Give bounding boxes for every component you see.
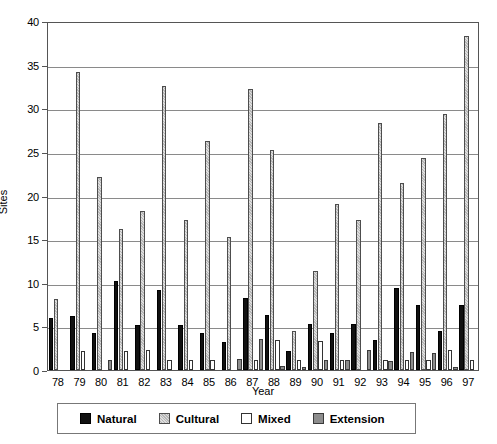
bar-natural-96 — [438, 331, 443, 370]
bar-cultural-93 — [378, 123, 383, 370]
y-tick-label: 40 — [27, 17, 39, 28]
bar-cultural-81 — [119, 229, 124, 370]
bar-mixed-97 — [470, 360, 475, 370]
gridline — [48, 67, 478, 68]
bar-natural-93 — [373, 340, 378, 370]
bar-natural-89 — [286, 351, 291, 370]
bar-cultural-90 — [313, 271, 318, 370]
bar-mixed-88 — [275, 340, 280, 370]
bar-natural-91 — [330, 333, 335, 370]
legend-label: Mixed — [258, 413, 291, 425]
gridline — [48, 198, 478, 199]
bar-natural-86 — [222, 342, 227, 370]
bar-natural-78 — [49, 318, 54, 370]
bar-extension-90 — [324, 360, 329, 370]
bar-natural-87 — [243, 298, 248, 370]
bar-natural-92 — [351, 324, 356, 370]
legend-swatch-cultural-icon — [159, 413, 170, 424]
bar-cultural-82 — [140, 211, 145, 370]
bar-mixed-93 — [383, 360, 388, 370]
legend-item-cultural: Cultural — [159, 413, 219, 425]
bar-extension-88 — [280, 366, 285, 370]
bar-mixed-79 — [81, 351, 86, 370]
bar-extension-92 — [367, 350, 372, 370]
gridline — [48, 154, 478, 155]
bar-natural-94 — [394, 288, 399, 370]
bar-mixed-82 — [146, 350, 151, 370]
gridline — [48, 241, 478, 242]
y-tick-label: 5 — [33, 322, 39, 333]
y-tick-label: 35 — [27, 60, 39, 71]
legend-swatch-extension-icon — [313, 413, 324, 424]
bar-extension-95 — [432, 353, 437, 370]
bar-natural-88 — [265, 315, 270, 370]
bar-chart: 0510152025303540 Sites 78798081828384858… — [0, 0, 497, 444]
x-axis-title: Year — [47, 385, 479, 397]
y-tick-label: 20 — [27, 191, 39, 202]
legend-label: Natural — [97, 413, 137, 425]
bar-cultural-84 — [184, 220, 189, 370]
gridline — [48, 285, 478, 286]
legend-swatch-natural-icon — [80, 413, 91, 424]
bar-natural-85 — [200, 333, 205, 370]
bar-mixed-81 — [124, 351, 129, 370]
bar-cultural-79 — [76, 72, 81, 370]
bar-cultural-86 — [227, 237, 232, 370]
bar-extension-87 — [259, 339, 264, 370]
bar-cultural-87 — [248, 89, 253, 370]
bar-natural-95 — [416, 305, 421, 370]
bar-cultural-95 — [421, 158, 426, 370]
bar-mixed-89 — [297, 360, 302, 370]
bar-cultural-85 — [205, 141, 210, 370]
bar-natural-81 — [114, 281, 119, 370]
legend-item-extension: Extension — [313, 413, 385, 425]
bar-mixed-96 — [448, 350, 453, 370]
bar-mixed-84 — [189, 360, 194, 370]
bar-extension-89 — [302, 367, 307, 370]
bar-extension-93 — [388, 361, 393, 370]
y-tick-label: 25 — [27, 147, 39, 158]
y-tick-label: 0 — [33, 366, 39, 377]
bar-extension-80 — [108, 360, 113, 370]
bar-cultural-91 — [335, 204, 340, 370]
bar-mixed-83 — [167, 360, 172, 370]
legend-item-natural: Natural — [80, 413, 137, 425]
bar-cultural-97 — [464, 36, 469, 370]
bar-natural-79 — [70, 316, 75, 370]
bar-extension-94 — [410, 352, 415, 370]
bar-mixed-87 — [254, 360, 259, 370]
bar-cultural-83 — [162, 86, 167, 370]
bar-mixed-91 — [340, 360, 345, 370]
bar-natural-97 — [459, 305, 464, 370]
y-tick-label: 10 — [27, 278, 39, 289]
bar-cultural-92 — [356, 220, 361, 370]
bar-extension-91 — [345, 360, 350, 370]
bar-cultural-94 — [400, 183, 405, 370]
gridline — [48, 328, 478, 329]
gridline — [48, 110, 478, 111]
bar-cultural-88 — [270, 150, 275, 370]
bar-mixed-90 — [318, 341, 323, 370]
bar-natural-82 — [135, 325, 140, 370]
plot-area — [47, 22, 479, 371]
bar-natural-80 — [92, 333, 97, 370]
bar-cultural-96 — [443, 114, 448, 370]
bar-cultural-78 — [54, 299, 59, 370]
y-tick-label: 30 — [27, 104, 39, 115]
bar-natural-90 — [308, 324, 313, 370]
chart-legend: NaturalCulturalMixedExtension — [57, 403, 416, 434]
bar-natural-84 — [178, 325, 183, 370]
legend-swatch-mixed-icon — [241, 413, 252, 424]
bar-extension-96 — [453, 367, 458, 370]
bar-mixed-85 — [210, 360, 215, 370]
bar-natural-83 — [157, 290, 162, 370]
bar-mixed-94 — [405, 360, 410, 370]
bar-mixed-95 — [426, 360, 431, 370]
y-axis-title: Sites — [0, 190, 9, 214]
bar-cultural-89 — [292, 331, 297, 370]
legend-label: Cultural — [176, 413, 219, 425]
legend-item-mixed: Mixed — [241, 413, 291, 425]
bar-extension-86 — [237, 359, 242, 370]
legend-label: Extension — [330, 413, 385, 425]
bar-cultural-80 — [97, 177, 102, 370]
